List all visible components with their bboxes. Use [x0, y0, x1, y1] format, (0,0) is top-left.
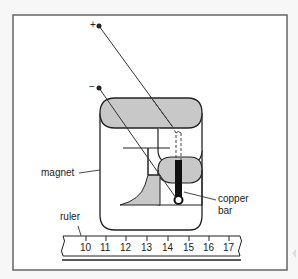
ruler-tick-16: 16 [203, 242, 214, 253]
ruler-tick-12: 12 [120, 242, 131, 253]
ruler-tick-15: 15 [183, 242, 194, 253]
magnet-top-face [100, 98, 202, 128]
ruler-tick-17: 17 [223, 242, 234, 253]
ruler-tick-10: 10 [80, 242, 91, 253]
copper-bar-label-line1: copper [218, 193, 249, 204]
ruler-tick-11: 11 [100, 242, 110, 253]
ruler-label: ruler [60, 211, 80, 222]
copper-bar-label-line2: bar [218, 205, 232, 216]
ruler-tick-14: 14 [162, 242, 173, 253]
copper-bar [175, 160, 182, 200]
edge-mark [292, 249, 296, 258]
positive-sign: + [90, 19, 96, 30]
diagram-canvas [0, 0, 298, 279]
magnet-label: magnet [41, 167, 74, 178]
negative-sign: − [89, 81, 95, 92]
ruler-tick-13: 13 [141, 242, 152, 253]
